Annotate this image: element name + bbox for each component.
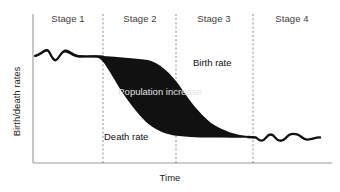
demographic-transition-diagram: Stage 1 Stage 2 Stage 3 Stage 4 Birth/de…	[0, 0, 340, 192]
population-increase-area	[35, 49, 253, 138]
stage4-combined-line	[248, 134, 320, 141]
diagram-canvas	[0, 0, 340, 192]
stage1-combined-line	[35, 50, 103, 60]
